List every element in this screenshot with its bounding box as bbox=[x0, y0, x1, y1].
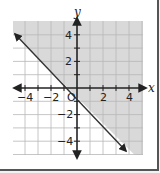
x-tick-label: 4 bbox=[126, 91, 133, 104]
origin-label: O bbox=[67, 91, 76, 104]
x-tick-label: −2 bbox=[43, 91, 59, 104]
graph-card: x y O −4 −2 2 4 4 2 −2 −4 bbox=[0, 0, 159, 171]
y-tick-label: −2 bbox=[57, 108, 73, 121]
y-tick-label: 4 bbox=[65, 29, 72, 42]
x-axis-label: x bbox=[148, 81, 155, 95]
x-tick-label: 2 bbox=[100, 91, 107, 104]
y-axis-label: y bbox=[73, 5, 81, 19]
coordinate-plane: x y O −4 −2 2 4 4 2 −2 −4 bbox=[0, 0, 160, 173]
y-tick-label: 2 bbox=[65, 55, 72, 68]
x-tick-label: −4 bbox=[17, 91, 33, 104]
y-tick-label: −4 bbox=[57, 135, 73, 148]
